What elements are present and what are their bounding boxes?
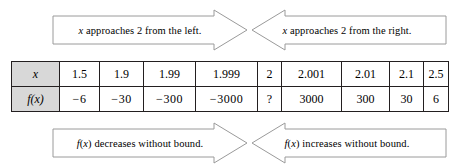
bottom-left-label-text: decreases without bound. [92,138,204,149]
top-right-label-text: approaches 2 from the right. [287,25,411,36]
cell-fx-8: 6 [424,87,449,112]
bottom-right-label-text: increases without bound. [300,138,410,149]
cell-fx-4: ? [258,87,282,112]
row-header-x: x [12,62,60,87]
limit-table-figure: x approaches 2 from the left. x approach… [0,0,460,166]
cell-fx-0: −6 [60,87,100,112]
cell-x-3: 1.999 [196,62,258,87]
bottom-arrow-band: f(x) decreases without bound. f(x) incre… [0,120,460,166]
bottom-right-arrow-label: f(x) increases without bound. [258,120,436,166]
row-header-fx: f(x) [12,87,60,112]
cell-x-5: 2.001 [282,62,342,87]
cell-fx-7: 30 [390,87,424,112]
cell-x-4: 2 [258,62,282,87]
cell-x-8: 2.5 [424,62,449,87]
top-left-label-text: approaches 2 from the left. [83,25,201,36]
table-row-fx: f(x) −6 −30 −300 −3000 ? 3000 300 30 6 [12,87,449,112]
cell-x-1: 1.9 [100,62,144,87]
top-left-arrow-label: x approaches 2 from the left. [54,7,226,53]
cell-x-7: 2.1 [390,62,424,87]
cell-fx-1: −30 [100,87,144,112]
limit-table-wrapper: x 1.5 1.9 1.99 1.999 2 2.001 2.01 2.1 2.… [11,61,448,112]
cell-fx-5: 3000 [282,87,342,112]
cell-fx-3: −3000 [196,87,258,112]
top-arrow-band: x approaches 2 from the left. x approach… [0,7,460,53]
bottom-left-arrow-label: f(x) decreases without bound. [54,120,226,166]
cell-x-0: 1.5 [60,62,100,87]
cell-x-6: 2.01 [342,62,390,87]
table-row-x: x 1.5 1.9 1.99 1.999 2 2.001 2.01 2.1 2.… [12,62,449,87]
cell-fx-6: 300 [342,87,390,112]
cell-x-2: 1.99 [144,62,196,87]
limit-table: x 1.5 1.9 1.99 1.999 2 2.001 2.01 2.1 2.… [11,61,449,112]
top-right-arrow-label: x approaches 2 from the right. [258,7,436,53]
cell-fx-2: −300 [144,87,196,112]
